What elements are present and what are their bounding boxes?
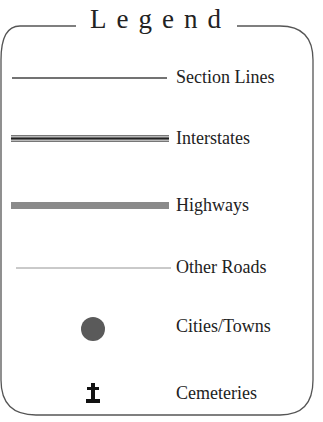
legend-label-cemeteries: Cemeteries (176, 383, 257, 404)
legend-label-interstates: Interstates (176, 128, 250, 149)
section-line-symbol (12, 75, 172, 81)
legend-label-section-lines: Section Lines (176, 67, 274, 88)
city-circle-icon (80, 316, 106, 342)
legend-title: Legend (0, 4, 313, 35)
legend-label-other-roads: Other Roads (176, 257, 266, 278)
interstate-symbol (11, 134, 171, 144)
other-road-symbol (16, 266, 176, 270)
legend-label-highways: Highways (176, 195, 249, 216)
legend-frame (0, 0, 323, 422)
cemetery-cross-icon (84, 382, 102, 404)
legend-label-cities-towns: Cities/Towns (176, 316, 271, 337)
highway-symbol (11, 201, 171, 211)
